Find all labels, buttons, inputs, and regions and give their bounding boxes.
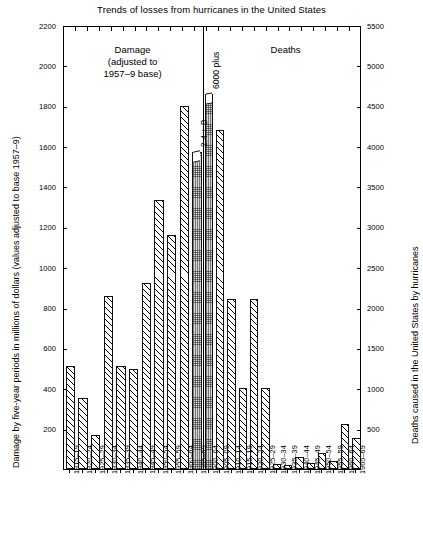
- y-tick-label-left: 1000: [0, 264, 56, 273]
- top-tick: [146, 26, 147, 31]
- y-tick-label-left: 2200: [0, 22, 56, 31]
- top-tick: [194, 26, 195, 31]
- y-tick-label-right: 5000: [367, 62, 384, 71]
- x-tick-label: 1935–39: [123, 445, 132, 474]
- x-tick: [219, 470, 220, 473]
- y-tick-label-left: 200: [0, 425, 56, 434]
- x-tick: [231, 470, 232, 473]
- top-tick: [230, 26, 231, 31]
- y-tick-label-right: 1500: [367, 344, 384, 353]
- y-tick-left: [63, 268, 67, 269]
- y-tick-right: [357, 430, 361, 431]
- chart-title: Trends of losses from hurricanes in the …: [0, 4, 423, 15]
- top-tick: [87, 26, 88, 31]
- panel-caption-line: 1957–9 base): [71, 68, 194, 80]
- y-tick-left: [63, 349, 67, 350]
- x-tick: [133, 470, 134, 473]
- bar-deaths-1920-24: [250, 299, 258, 469]
- x-tick: [299, 470, 300, 473]
- y-tick-label-right: 4000: [367, 143, 384, 152]
- y-tick-left: [63, 309, 67, 310]
- y-tick-right: [357, 389, 361, 390]
- top-tick: [111, 26, 112, 31]
- bar-break-gap: [206, 92, 212, 104]
- y-tick-label-left: 2000: [0, 62, 56, 71]
- y-tick-label-right: 1000: [367, 385, 384, 394]
- bar-deaths-1905-09: [216, 130, 224, 469]
- bar-deaths-1900-04: [205, 94, 213, 469]
- top-tick: [289, 26, 290, 31]
- x-tick: [95, 470, 96, 473]
- x-tick: [242, 470, 243, 473]
- y-tick-label-left: 600: [0, 344, 56, 353]
- panel-caption-line: (adjusted to: [71, 56, 194, 68]
- bar-annotation: 2.4 + B: [199, 120, 209, 147]
- x-tick: [69, 470, 70, 473]
- bar-damage-1945-49: [142, 283, 151, 469]
- top-tick: [242, 26, 243, 31]
- top-tick: [182, 26, 183, 31]
- top-tick: [75, 26, 76, 31]
- x-tick: [265, 470, 266, 473]
- x-tick: [196, 470, 197, 473]
- y-tick-right: [357, 26, 361, 27]
- x-tick: [107, 470, 108, 473]
- top-tick: [266, 26, 267, 31]
- x-tick: [344, 470, 345, 473]
- x-tick-label: 1920–24: [85, 445, 94, 474]
- panel-caption-line: Deaths: [218, 44, 353, 56]
- top-tick: [301, 26, 302, 31]
- y-tick-label-right: 3000: [367, 223, 384, 232]
- x-tick-label: 1965–69: [358, 445, 367, 474]
- x-tick-label: 1960–64: [186, 445, 195, 474]
- x-tick-label: 1950–54: [161, 445, 170, 474]
- top-tick: [325, 26, 326, 31]
- panel-caption-deaths: Deaths: [218, 44, 353, 56]
- y-tick-left: [63, 187, 67, 188]
- y-tick-left: [63, 107, 67, 108]
- top-tick: [206, 26, 207, 31]
- y-tick-label-right: 5500: [367, 22, 384, 31]
- top-tick: [278, 26, 279, 31]
- x-tick-label: 1915–19: [72, 445, 81, 474]
- y-tick-label-right: 500: [367, 425, 380, 434]
- panel-caption-damage: Damage(adjusted to1957–9 base): [71, 44, 194, 80]
- x-tick: [355, 470, 356, 473]
- panel-caption-line: Damage: [71, 44, 194, 56]
- x-tick: [183, 470, 184, 473]
- y-tick-left: [63, 26, 67, 27]
- bar-damage-1930-34: [104, 296, 113, 469]
- top-tick: [218, 26, 219, 31]
- bar-damage-1955-59: [167, 235, 176, 469]
- y-tick-label-left: 800: [0, 304, 56, 313]
- x-tick: [120, 470, 121, 473]
- top-tick: [349, 26, 350, 31]
- x-tick: [287, 470, 288, 473]
- x-tick: [321, 470, 322, 473]
- y-tick-label-right: 2500: [367, 264, 384, 273]
- right-axis-title: Deaths caused in the United States by hu…: [410, 246, 420, 444]
- x-tick: [333, 470, 334, 473]
- y-tick-left: [63, 147, 67, 148]
- y-tick-label-right: 3500: [367, 183, 384, 192]
- bar-annotation: 6000 plus: [211, 51, 221, 88]
- x-tick: [82, 470, 83, 473]
- y-tick-left: [63, 66, 67, 67]
- y-tick-label-left: 1800: [0, 102, 56, 111]
- bar-damage-1960-64: [180, 106, 189, 469]
- x-tick: [208, 470, 209, 473]
- y-tick-label-left: 1600: [0, 143, 56, 152]
- y-tick-right: [357, 349, 361, 350]
- top-tick: [254, 26, 255, 31]
- top-tick: [99, 26, 100, 31]
- y-tick-right: [357, 147, 361, 148]
- top-tick: [170, 26, 171, 31]
- top-tick: [313, 26, 314, 31]
- y-tick-label-right: 4500: [367, 102, 384, 111]
- top-tick: [158, 26, 159, 31]
- y-tick-left: [63, 389, 67, 390]
- x-tick-label: 1940–44: [136, 445, 145, 474]
- x-tick: [310, 470, 311, 473]
- bar-damage-1950-54: [154, 200, 163, 469]
- y-tick-label-left: 1200: [0, 223, 56, 232]
